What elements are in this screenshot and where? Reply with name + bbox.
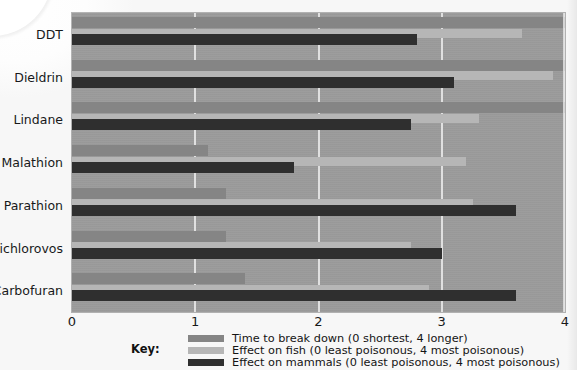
key-label-fish: Effect on fish (0 least poisonous, 4 mos…	[232, 345, 524, 356]
category-label: Dichlorovos	[0, 243, 63, 256]
bar-group	[72, 141, 565, 184]
x-tick-label-2: 2	[314, 315, 322, 328]
bar-group	[72, 269, 565, 312]
key-row-time: Time to break down (0 shortest, 4 longer…	[188, 333, 468, 344]
key-row-mammals: Effect on mammals (0 least poisonous, 4 …	[188, 357, 560, 368]
bar-mammals	[72, 290, 516, 301]
bar-group	[72, 184, 565, 227]
plot-area	[72, 13, 565, 312]
x-tick-label-1: 1	[191, 315, 199, 328]
bar-group	[72, 56, 565, 99]
bar-group	[72, 98, 565, 141]
category-label: Carbofuran	[0, 285, 63, 298]
x-tick-label-0: 0	[68, 315, 76, 328]
bar-group	[72, 13, 565, 56]
key-label-time: Time to break down (0 shortest, 4 longer…	[232, 333, 468, 344]
bar-time	[72, 145, 208, 156]
key-label-mammals: Effect on mammals (0 least poisonous, 4 …	[232, 357, 560, 368]
category-label: DDT	[36, 29, 63, 42]
key-swatch-mammals	[188, 359, 224, 366]
plot-right-edge	[563, 13, 565, 312]
bar-mammals	[72, 162, 294, 173]
key-row-fish: Effect on fish (0 least poisonous, 4 mos…	[188, 345, 524, 356]
category-label: Malathion	[2, 157, 63, 170]
bar-mammals	[72, 77, 454, 88]
bar-mammals	[72, 119, 411, 130]
bar-time	[72, 231, 226, 242]
category-label: Lindane	[13, 114, 63, 127]
category-label: Parathion	[4, 200, 63, 213]
bar-time	[72, 17, 565, 28]
bar-time	[72, 102, 565, 113]
bar-mammals	[72, 34, 417, 45]
x-tick-label-4: 4	[561, 315, 569, 328]
bar-mammals	[72, 248, 442, 259]
bar-mammals	[72, 205, 516, 216]
bar-time	[72, 60, 565, 71]
bar-time	[72, 273, 245, 284]
key-swatch-fish	[188, 347, 224, 354]
chart-key: Key: Time to break down (0 shortest, 4 l…	[131, 333, 571, 369]
category-axis: DDTDieldrinLindaneMalathionParathionDich…	[0, 13, 72, 312]
category-label: Dieldrin	[14, 72, 63, 85]
bar-group	[72, 227, 565, 270]
x-tick-label-3: 3	[438, 315, 446, 328]
chart-page: DDTDieldrinLindaneMalathionParathionDich…	[0, 0, 577, 370]
key-swatch-time	[188, 335, 224, 342]
key-title: Key:	[131, 344, 160, 356]
bar-time	[72, 188, 226, 199]
